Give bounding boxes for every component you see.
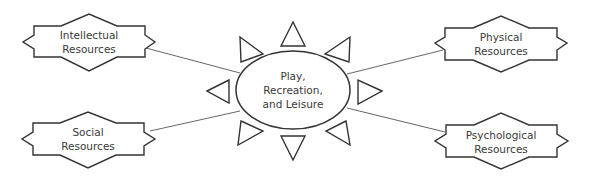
sun-ray-lower-left xyxy=(238,121,263,145)
node-label-line: Intellectual xyxy=(39,28,139,42)
node-label-line: Social xyxy=(38,125,138,139)
node-label-intellectual: Intellectual Resources xyxy=(39,28,139,56)
node-label-line: Physical xyxy=(451,30,551,44)
node-label-line: Resources xyxy=(38,139,138,153)
sun-ray-left xyxy=(207,80,229,103)
node-label-physical: Physical Resources xyxy=(451,30,551,58)
sun-ray-top xyxy=(281,22,305,46)
node-label-psychological: Psychological Resources xyxy=(451,128,551,156)
sun-ray-upper-right xyxy=(325,37,350,62)
connector-intellectual xyxy=(146,48,240,73)
node-label-line: Psychological xyxy=(451,128,551,142)
center-label-line-3: and Leisure xyxy=(243,97,343,111)
sun-ray-lower-right xyxy=(326,121,350,145)
node-label-line: Resources xyxy=(39,42,139,56)
center-label-line-2: Recreation, xyxy=(243,83,343,97)
node-label-line: Resources xyxy=(451,44,551,58)
center-label: Play, Recreation, and Leisure xyxy=(243,69,343,111)
connector-social xyxy=(150,111,240,131)
sun-ray-bottom xyxy=(281,136,305,160)
node-label-line: Resources xyxy=(451,142,551,156)
center-label-line-1: Play, xyxy=(243,69,343,83)
node-label-social: Social Resources xyxy=(38,125,138,153)
sun-ray-right xyxy=(358,80,382,104)
connector-psychological xyxy=(347,108,445,132)
connector-physical xyxy=(347,50,443,74)
